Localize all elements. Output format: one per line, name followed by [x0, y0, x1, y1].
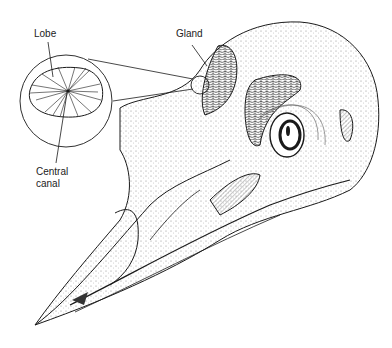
label-lobe: Lobe [34, 28, 56, 39]
label-central-canal-line1: Central [36, 166, 68, 177]
label-central-canal-line2: canal [36, 178, 60, 189]
label-gland: Gland [176, 28, 203, 39]
